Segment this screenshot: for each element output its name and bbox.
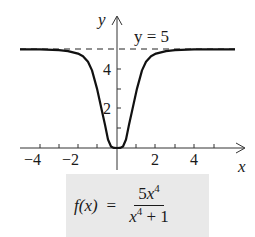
denominator-rest: + 1 xyxy=(142,207,169,226)
function-plot: y y = 5 4 2 −4 −2 2 4 x xyxy=(0,0,255,174)
y-tick-label-2: 2 xyxy=(103,100,111,117)
numerator-coefficient: 5 xyxy=(138,184,147,203)
denominator-variable: x xyxy=(129,207,137,226)
formula-equals: = xyxy=(107,196,117,216)
formula-fraction: 5x4 x4 + 1 xyxy=(125,184,173,227)
x-tick-label-4: 4 xyxy=(190,151,198,168)
formula-lhs: f(x) xyxy=(74,196,98,216)
y-tick-label-4: 4 xyxy=(103,61,111,78)
x-axis xyxy=(20,143,245,153)
numerator-exponent: 4 xyxy=(154,182,160,194)
x-axis-label: x xyxy=(237,157,246,174)
asymptote-label: y = 5 xyxy=(134,27,169,46)
formula-denominator: x4 + 1 xyxy=(125,206,173,227)
formula-box: f(x) = 5x4 x4 + 1 xyxy=(66,174,209,237)
x-tick-label-neg2: −2 xyxy=(62,151,79,168)
formula-numerator: 5x4 xyxy=(134,184,164,206)
x-tick-label-neg4: −4 xyxy=(24,151,41,168)
function-formula: f(x) = 5x4 x4 + 1 xyxy=(74,174,173,237)
y-axis-label: y xyxy=(96,10,106,29)
x-tick-label-2: 2 xyxy=(151,151,159,168)
function-curve xyxy=(20,49,235,148)
